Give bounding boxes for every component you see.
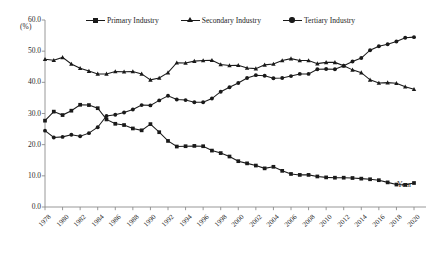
data-point: [210, 149, 214, 153]
series-primary-industry: [43, 103, 416, 187]
data-point: [131, 107, 135, 111]
data-point: [342, 176, 346, 180]
data-point: [140, 128, 144, 132]
data-point: [228, 155, 232, 159]
data-point: [157, 76, 161, 80]
data-point: [184, 98, 188, 102]
data-point: [201, 144, 205, 148]
data-point: [289, 74, 293, 78]
data-point: [43, 129, 47, 133]
data-point: [324, 67, 328, 71]
data-point: [69, 133, 73, 137]
data-point: [193, 144, 197, 148]
data-point: [351, 60, 355, 64]
data-point: [377, 44, 381, 48]
series-tertiary-industry: [43, 35, 416, 139]
data-point: [166, 139, 170, 143]
plot-area: [0, 0, 439, 256]
data-point: [342, 64, 346, 68]
data-point: [395, 183, 399, 187]
data-point: [61, 135, 65, 139]
data-point: [236, 81, 240, 85]
data-point: [280, 169, 284, 173]
data-point: [149, 122, 153, 126]
data-point: [113, 122, 117, 126]
axes: [42, 20, 426, 210]
data-point: [96, 125, 100, 129]
data-point: [386, 181, 390, 185]
data-point: [43, 119, 47, 123]
data-point: [236, 159, 240, 163]
data-point: [254, 73, 258, 77]
data-point: [166, 94, 170, 98]
data-point: [263, 167, 267, 171]
data-point: [412, 35, 416, 39]
data-point: [228, 85, 232, 89]
data-point: [289, 56, 293, 60]
data-point: [122, 111, 126, 115]
data-point: [157, 98, 161, 102]
data-point: [122, 123, 126, 127]
data-point: [96, 106, 100, 110]
data-point: [52, 136, 56, 140]
data-point: [412, 181, 416, 185]
data-point: [403, 36, 407, 40]
data-point: [210, 97, 214, 101]
data-point: [272, 165, 276, 169]
data-point: [219, 151, 223, 155]
data-point: [351, 176, 355, 180]
data-point: [368, 177, 372, 181]
data-point: [140, 103, 144, 107]
data-point: [105, 114, 109, 118]
data-point: [60, 55, 64, 59]
data-point: [280, 76, 284, 80]
data-point: [87, 131, 91, 135]
data-point: [307, 173, 311, 177]
data-point: [359, 56, 363, 60]
data-point: [359, 177, 363, 181]
data-point: [131, 127, 135, 131]
data-series: [43, 35, 416, 187]
data-point: [175, 145, 179, 149]
data-point: [78, 103, 82, 107]
data-point: [219, 90, 223, 94]
data-point: [289, 172, 293, 176]
data-point: [254, 164, 258, 168]
data-point: [315, 67, 319, 71]
data-point: [175, 98, 179, 102]
data-point: [113, 113, 117, 117]
data-point: [192, 100, 196, 104]
data-point: [333, 176, 337, 180]
data-point: [148, 103, 152, 107]
data-point: [52, 110, 56, 114]
data-point: [78, 134, 82, 138]
data-point: [157, 130, 161, 134]
data-point: [333, 67, 337, 71]
data-point: [87, 103, 91, 107]
line-chart: (%) Primary Industry Secondary Industry …: [0, 0, 439, 256]
data-point: [298, 72, 302, 76]
data-point: [245, 162, 249, 166]
data-point: [403, 183, 407, 187]
data-point: [316, 175, 320, 179]
data-point: [201, 100, 205, 104]
data-point: [307, 72, 311, 76]
data-point: [61, 113, 65, 117]
data-point: [245, 76, 249, 80]
data-point: [70, 109, 74, 113]
data-point: [184, 144, 188, 148]
data-point: [263, 74, 267, 78]
data-point: [386, 42, 390, 46]
data-point: [377, 178, 381, 182]
data-point: [324, 176, 328, 180]
data-point: [368, 48, 372, 52]
data-point: [271, 76, 275, 80]
data-point: [298, 173, 302, 177]
data-point: [394, 40, 398, 44]
